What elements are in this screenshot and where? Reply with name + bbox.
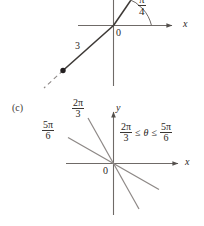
top-terminal-ray <box>114 0 132 26</box>
top-radius-label: 3 <box>75 41 80 51</box>
bottom-origin-label: 0 <box>103 166 108 176</box>
bottom-label-5pi-6-denominator: 6 <box>42 131 54 141</box>
bottom-label-5pi-6: 5π 6 <box>42 120 54 141</box>
inequality-left-denominator: 3 <box>120 133 132 143</box>
top-x-axis-label: x <box>183 19 187 29</box>
inequality-op-left: ≤ <box>132 128 144 138</box>
figure-page: π 4 x 0 3 (c) 2π 3 5π 6 2π 3 ≤ θ ≤ 5π 6 <box>0 0 204 226</box>
bottom-y-axis-label: y <box>116 103 120 113</box>
top-diagram-group <box>44 0 172 88</box>
part-label-c: (c) <box>12 103 23 113</box>
inequality-right-denominator: 6 <box>160 133 172 143</box>
figure-artwork <box>0 0 204 226</box>
bottom-label-2pi-3-denominator: 3 <box>72 109 84 119</box>
top-dashed-extension <box>44 71 63 89</box>
bottom-x-axis-label: x <box>185 157 189 167</box>
top-origin-label: 0 <box>116 28 121 38</box>
top-angle-denominator: 4 <box>138 6 146 17</box>
top-point-marker <box>60 68 65 73</box>
bottom-label-2pi-3: 2π 3 <box>72 98 84 119</box>
top-angle-label: π 4 <box>138 0 146 17</box>
bottom-inequality: 2π 3 ≤ θ ≤ 5π 6 <box>120 122 172 143</box>
inequality-op-right: ≤ <box>148 128 160 138</box>
top-radius-segment <box>63 26 114 71</box>
